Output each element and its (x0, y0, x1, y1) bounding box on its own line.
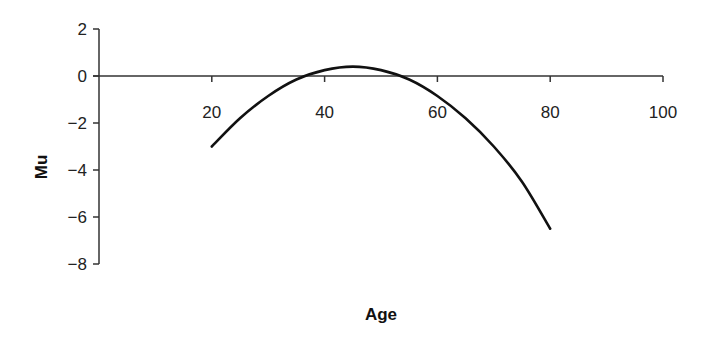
y-tick-label: 0 (78, 67, 87, 86)
x-tick-label: 20 (202, 103, 221, 122)
y-tick-label: −2 (68, 114, 87, 133)
x-tick-label: 40 (315, 103, 334, 122)
y-tick-label: −4 (68, 161, 87, 180)
y-axis-title: Mu (32, 155, 51, 180)
series-line-mu (212, 67, 550, 229)
line-chart: 20−2−4−6−8 20406080100 Mu Age (0, 0, 701, 344)
y-tick-label: −6 (68, 208, 87, 227)
series-group (212, 67, 550, 229)
x-tick-label: 80 (541, 103, 560, 122)
y-tick-label: 2 (78, 20, 87, 39)
x-tick-label: 100 (649, 103, 677, 122)
y-axis: 20−2−4−6−8 (68, 20, 99, 274)
x-tick-label: 60 (428, 103, 447, 122)
y-tick-label: −8 (68, 255, 87, 274)
x-axis-title: Age (365, 305, 397, 324)
x-axis: 20406080100 (93, 76, 677, 122)
